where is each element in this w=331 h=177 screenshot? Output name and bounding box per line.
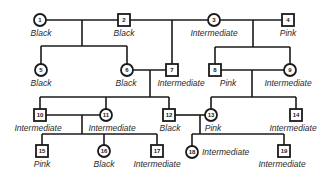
individual-17: 17 Intermediate	[133, 145, 181, 169]
svg-text:12: 12	[166, 112, 173, 118]
svg-text:16: 16	[101, 148, 108, 154]
svg-text:Intermediate: Intermediate	[264, 78, 312, 88]
svg-text:Black: Black	[114, 28, 136, 38]
svg-text:Intermediate: Intermediate	[258, 159, 306, 169]
svg-text:Intermediate: Intermediate	[88, 123, 136, 133]
svg-text:Pink: Pink	[205, 123, 222, 133]
svg-text:Black: Black	[160, 123, 182, 133]
individual-4: 4 Pink	[280, 14, 297, 38]
individual-15: 15 Pink	[34, 145, 51, 169]
svg-text:Black: Black	[31, 78, 53, 88]
svg-text:11: 11	[103, 112, 110, 118]
individual-7: 7 Intermediate	[157, 64, 205, 88]
svg-text:Intermediate: Intermediate	[269, 123, 317, 133]
individual-10: 10 Intermediate	[14, 109, 62, 133]
mating-6-7	[40, 70, 169, 109]
individual-5: 5 Black	[31, 64, 53, 88]
individual-8: 8 Pink	[209, 64, 237, 88]
individual-2: 2 Black	[114, 14, 136, 38]
mating-8-9	[211, 70, 296, 109]
individual-16: 16 Black	[94, 145, 116, 169]
individual-3: 3 Intermediate	[190, 14, 238, 38]
svg-text:Black: Black	[31, 28, 53, 38]
individual-1: 1 Black	[31, 14, 53, 38]
svg-text:18: 18	[189, 149, 196, 155]
individual-9: 9 Intermediate	[264, 64, 312, 88]
individual-11: 11 Intermediate	[88, 109, 136, 133]
svg-text:Pink: Pink	[220, 78, 237, 88]
svg-text:10: 10	[37, 112, 44, 118]
individual-6: 6 Black	[116, 64, 138, 88]
svg-text:Black: Black	[116, 78, 138, 88]
individual-19: 19 Intermediate	[258, 145, 306, 169]
individual-14: 14 Intermediate	[269, 109, 317, 133]
individual-13: 13 Pink	[205, 109, 222, 133]
svg-text:19: 19	[281, 148, 288, 154]
svg-text:Intermediate: Intermediate	[14, 123, 62, 133]
svg-text:Pink: Pink	[280, 28, 297, 38]
svg-text:Intermediate: Intermediate	[133, 159, 181, 169]
svg-text:Black: Black	[94, 159, 116, 169]
svg-text:Pink: Pink	[34, 159, 51, 169]
svg-text:13: 13	[208, 112, 215, 118]
mating-3-4	[130, 20, 290, 64]
mating-12-13	[175, 115, 284, 146]
svg-text:Intermediate: Intermediate	[190, 28, 238, 38]
individual-18: 18 Intermediate	[186, 146, 250, 158]
svg-text:15: 15	[39, 148, 46, 154]
svg-text:Intermediate: Intermediate	[202, 147, 250, 157]
pedigree-chart: 1 Black 2 Black 3 Intermediate 4 Pink 5 …	[0, 0, 331, 177]
mating-1-2	[41, 20, 127, 64]
svg-text:14: 14	[293, 112, 300, 118]
individual-12: 12 Black	[160, 109, 182, 133]
svg-text:Intermediate: Intermediate	[157, 78, 205, 88]
svg-text:17: 17	[154, 148, 161, 154]
